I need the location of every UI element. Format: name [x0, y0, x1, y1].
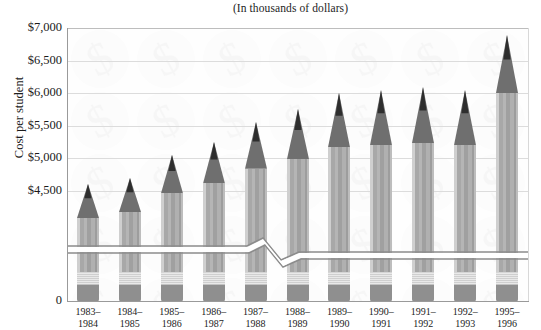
pencil-ferrule: [454, 272, 476, 285]
pencil-bar[interactable]: [496, 35, 518, 303]
pencil-body: [119, 212, 141, 275]
pencil-eraser: [245, 285, 267, 302]
pencil-eraser: [454, 285, 476, 302]
pencil-body: [454, 145, 476, 274]
x-tick-label-line2: 1993: [444, 318, 486, 330]
plot-area: $: [67, 28, 528, 302]
y-tick-label: $7,000: [0, 20, 62, 35]
x-tick-label-line1: 1984–: [109, 306, 151, 318]
pencil-bar[interactable]: [161, 155, 183, 302]
pencil-body: [245, 169, 267, 274]
x-tick-label-line2: 1992: [402, 318, 444, 330]
pencil-bar[interactable]: [119, 178, 141, 303]
pencil-ferrule: [119, 272, 141, 285]
pencil-body: [203, 183, 225, 274]
x-tick-label-line1: 1987–: [235, 306, 277, 318]
x-tick-label: 1984–1985: [109, 306, 151, 329]
pencil-ferrule: [161, 272, 183, 285]
y-tick-label: $5,500: [0, 118, 62, 133]
pencil-tip-icon: [77, 184, 99, 218]
pencil-eraser: [203, 285, 225, 302]
x-tick-label-line2: 1985: [109, 318, 151, 330]
pencil-body: [161, 193, 183, 274]
x-tick-label: 1995–1996: [486, 306, 528, 329]
x-tick-label-line2: 1990: [318, 318, 360, 330]
pencil-eraser: [328, 285, 350, 302]
pencil-bar[interactable]: [328, 93, 350, 302]
x-tick-label-line1: 1985–: [151, 306, 193, 318]
y-tick-label: $5,000: [0, 150, 62, 165]
pencil-bar[interactable]: [245, 122, 267, 302]
x-tick-label-line1: 1991–: [402, 306, 444, 318]
pencil-tip-icon: [412, 87, 434, 143]
x-tick-label: 1988–1989: [277, 306, 319, 329]
chart-title-text: (In thousands of dollars): [193, 2, 348, 14]
x-tick-label-line2: 1989: [277, 318, 319, 330]
x-tick-label-line1: 1992–: [444, 306, 486, 318]
pencil-eraser: [287, 285, 309, 302]
pencil-eraser: [77, 285, 99, 302]
pencil-eraser: [119, 285, 141, 302]
pencil-body: [328, 147, 350, 274]
x-tick-label-line2: 1984: [67, 318, 109, 330]
pencil-tip-icon: [161, 155, 183, 193]
pencil-eraser: [412, 285, 434, 302]
x-tick-label-line2: 1991: [360, 318, 402, 330]
x-tick-label-line2: 1988: [235, 318, 277, 330]
pencil-tip-icon: [496, 35, 518, 93]
x-tick-label-line1: 1986–: [193, 306, 235, 318]
pencil-bar[interactable]: [77, 184, 99, 302]
pencil-ferrule: [328, 272, 350, 285]
pencil-body: [77, 218, 99, 274]
plot-right-edge: [528, 28, 529, 302]
x-tick-label: 1986–1987: [193, 306, 235, 329]
y-tick-label: $6,000: [0, 85, 62, 100]
x-tick-label: 1991–1992: [402, 306, 444, 329]
pencil-ferrule: [496, 272, 518, 285]
pencil-bar[interactable]: [203, 142, 225, 302]
y-axis-line: [67, 28, 68, 302]
x-tick-label: 1990–1991: [360, 306, 402, 329]
pencil-bar[interactable]: [454, 90, 476, 302]
x-tick-label-line1: 1989–: [318, 306, 360, 318]
pencil-tip-icon: [328, 93, 350, 147]
x-tick-label: 1989–1990: [318, 306, 360, 329]
pencil-ferrule: [412, 272, 434, 285]
x-tick-label-line2: 1987: [193, 318, 235, 330]
pencil-bar[interactable]: [412, 87, 434, 303]
x-tick-label: 1987–1988: [235, 306, 277, 329]
x-tick-label: 1983–1984: [67, 306, 109, 329]
x-tick-label-line1: 1983–: [67, 306, 109, 318]
pencil-eraser: [161, 285, 183, 302]
pencil-ferrule: [77, 272, 99, 285]
pencil-body: [412, 143, 434, 274]
x-tick-label-line2: 1996: [486, 318, 528, 330]
pencil-tip-icon: [245, 122, 267, 169]
chart-title: (In thousands of dollars): [0, 2, 541, 14]
gridline: [67, 28, 528, 29]
pencil-body: [370, 145, 392, 274]
y-tick-label: $6,500: [0, 53, 62, 68]
gridline: [67, 61, 528, 62]
pencil-ferrule: [287, 272, 309, 285]
chart-root: (In thousands of dollars) Cost per stude…: [0, 0, 541, 330]
x-axis-line: [67, 301, 529, 302]
pencil-ferrule: [245, 272, 267, 285]
y-tick-label: $4,500: [0, 183, 62, 198]
pencil-tip-icon: [454, 90, 476, 145]
x-tick-label-line1: 1988–: [277, 306, 319, 318]
pencil-eraser: [496, 285, 518, 302]
x-tick-label-line2: 1986: [151, 318, 193, 330]
pencil-bar[interactable]: [370, 90, 392, 302]
x-tick-label-line1: 1995–: [486, 306, 528, 318]
pencil-tip-icon: [119, 178, 141, 212]
pencil-tip-icon: [287, 109, 309, 159]
y-tick-label: 0: [0, 293, 62, 308]
pencil-ferrule: [203, 272, 225, 285]
pencil-ferrule: [370, 272, 392, 285]
pencil-eraser: [370, 285, 392, 302]
pencil-body: [287, 159, 309, 274]
pencil-tip-icon: [370, 90, 392, 145]
pencil-bar[interactable]: [287, 109, 309, 302]
pencil-tip-icon: [203, 142, 225, 184]
